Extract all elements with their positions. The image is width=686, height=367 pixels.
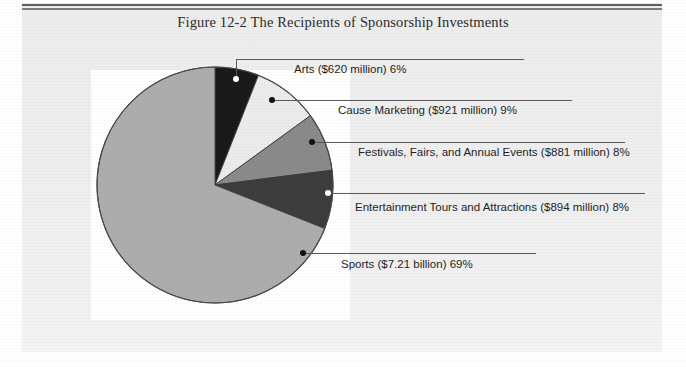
top-rule-upper xyxy=(22,4,662,6)
slice-label-cause-marketing: Cause Marketing ($921 million) 9% xyxy=(338,103,517,117)
figure-title: Figure 12-2 The Recipients of Sponsorshi… xyxy=(0,14,686,31)
slice-label-arts: Arts ($620 million) 6% xyxy=(294,62,406,76)
leader-line-entertainment-horizontal xyxy=(329,193,645,194)
figure-page: Figure 12-2 The Recipients of Sponsorshi… xyxy=(0,0,686,367)
pie-chart-svg xyxy=(90,60,340,310)
leader-line-sports-horizontal xyxy=(304,253,536,254)
slice-label-sports: Sports ($7.21 billion) 69% xyxy=(341,257,473,271)
leader-line-cause-horizontal xyxy=(272,100,572,101)
slice-label-festivals: Festivals, Fairs, and Annual Events ($88… xyxy=(358,145,630,159)
pie-chart xyxy=(90,60,340,310)
top-rule-lower xyxy=(22,8,662,10)
marker-dot-festivals xyxy=(309,139,315,145)
marker-dot-entertainment xyxy=(325,190,331,196)
marker-dot-arts xyxy=(233,76,239,82)
leader-line-festivals-horizontal xyxy=(312,142,625,143)
leader-line-arts-horizontal xyxy=(236,59,524,60)
slice-label-entertainment: Entertainment Tours and Attractions ($89… xyxy=(355,200,629,214)
marker-dot-sports xyxy=(300,250,306,256)
marker-dot-cause xyxy=(269,97,275,103)
